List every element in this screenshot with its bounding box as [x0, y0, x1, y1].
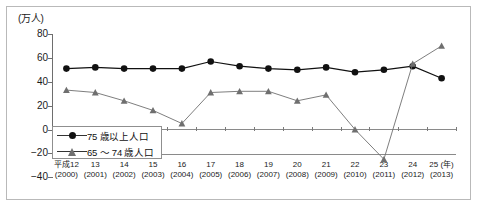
x-axis-label: 25 (年)(2013) — [419, 160, 465, 180]
x-tick-mark — [369, 127, 370, 131]
legend-label-75-plus: 75 歳以上人口 — [87, 129, 149, 143]
x-tick-mark — [341, 127, 342, 131]
x-tick-mark — [225, 127, 226, 131]
y-axis-unit-label: (万人) — [18, 10, 43, 25]
x-tick-mark — [427, 127, 428, 131]
y-tick-label: 60 — [18, 53, 48, 63]
x-tick-mark — [254, 127, 255, 131]
y-tick-label: 40 — [18, 77, 48, 87]
y-tick-mark — [48, 58, 53, 59]
chart-container: (万人) 806040200−20−40 平成12(2000)13(2001)1… — [0, 0, 479, 207]
y-tick-label: −20 — [18, 148, 48, 158]
legend-marker-circle-icon — [57, 130, 87, 142]
y-tick-label: 0 — [18, 125, 48, 135]
y-tick-label: 20 — [18, 101, 48, 111]
y-tick-mark — [48, 106, 53, 107]
x-tick-mark — [312, 127, 313, 131]
legend-item-75-plus: 75 歳以上人口 — [53, 128, 161, 143]
y-tick-mark — [48, 34, 53, 35]
y-tick-mark — [48, 82, 53, 83]
chart-legend: 75 歳以上人口 65 ～ 74 歳人口 — [52, 126, 162, 159]
legend-marker-triangle-icon — [57, 146, 87, 158]
x-tick-mark — [283, 127, 284, 131]
x-tick-mark — [398, 127, 399, 131]
legend-label-65-74: 65 ～ 74 歳人口 — [87, 145, 154, 159]
x-tick-mark — [456, 127, 457, 131]
legend-item-65-74: 65 ～ 74 歳人口 — [53, 144, 161, 159]
y-tick-label: 80 — [18, 29, 48, 39]
x-tick-mark — [167, 127, 168, 131]
x-tick-mark — [196, 127, 197, 131]
